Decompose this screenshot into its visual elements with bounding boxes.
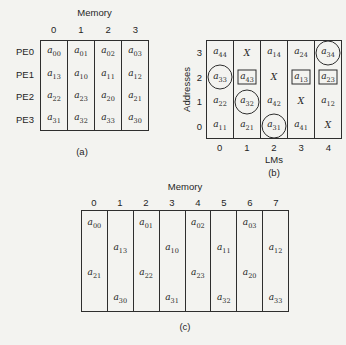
lm-column: X a43 a32 a21 [234, 41, 261, 138]
figure-page: Memory 0 1 2 3 PE0 PE1 PE2 PE3 a00 a13 a… [0, 0, 346, 345]
memory-column: a03 a20 [237, 211, 263, 311]
matrix-cell [134, 236, 159, 261]
matrix-cell [263, 211, 288, 236]
lm-column-label: 1 [233, 142, 260, 154]
matrix-cell [237, 286, 262, 311]
panel-a-title: Memory [40, 7, 149, 18]
matrix-cell: a20 [237, 261, 262, 286]
memory-column: a10 a31 [160, 211, 186, 311]
matrix-cell [108, 261, 133, 286]
matrix-entry: a21 [128, 91, 142, 102]
matrix-cell: a01 [134, 211, 159, 236]
matrix-entry: a43 [240, 72, 254, 83]
matrix-cell: a11 [211, 236, 236, 261]
matrix-entry: a31 [165, 293, 179, 304]
lm-column: a44 a33 a22 a11 [207, 41, 234, 138]
memory-column: a00 a21 [82, 211, 108, 311]
matrix-cell: a33 [263, 286, 288, 311]
matrix-entry: a32 [217, 293, 231, 304]
pe-row-label: PE2 [6, 86, 34, 109]
matrix-cell: a13 [41, 63, 67, 85]
matrix-cell: a21 [82, 261, 107, 286]
matrix-cell [263, 261, 288, 286]
matrix-entry: a21 [88, 268, 102, 279]
matrix-entry: a11 [101, 69, 115, 80]
matrix-cell: a02 [186, 211, 211, 236]
memory-column-label: 2 [95, 24, 122, 37]
matrix-entry: a11 [217, 243, 231, 254]
lm-column-label: 2 [260, 142, 287, 154]
matrix-entry: a13 [47, 69, 61, 80]
panel-b-row-labels: 3 2 1 0 [190, 40, 202, 139]
matrix-entry: X [271, 73, 277, 82]
matrix-cell: a30 [108, 286, 133, 311]
matrix-cell [186, 286, 211, 311]
matrix-entry: a32 [74, 113, 88, 124]
matrix-cell: a34 [315, 41, 341, 65]
matrix-entry: a10 [165, 243, 179, 254]
matrix-cell: a12 [122, 63, 148, 85]
panel-c-column-labels: 0 1 2 3 4 5 6 7 [81, 197, 289, 210]
matrix-cell [160, 211, 185, 236]
matrix-cell [160, 261, 185, 286]
memory-column-label: 1 [107, 197, 133, 210]
matrix-entry: X [325, 121, 331, 130]
memory-column-label: 0 [81, 197, 107, 210]
address-row-label: 3 [190, 40, 202, 65]
memory-column-label: 4 [185, 197, 211, 210]
memory-column-label: 3 [159, 197, 185, 210]
matrix-entry: a42 [267, 96, 281, 107]
matrix-cell: a44 [207, 41, 233, 65]
memory-column-label: 6 [237, 197, 263, 210]
panel-b-column-labels: 0 1 2 3 4 [206, 142, 342, 154]
matrix-cell: a30 [122, 108, 148, 130]
matrix-entry: a33 [269, 293, 283, 304]
matrix-entry: a12 [128, 69, 142, 80]
matrix-cell: a02 [95, 41, 121, 63]
matrix-cell: a31 [41, 108, 67, 130]
matrix-cell: a20 [95, 86, 121, 108]
panel-b-caption: (b) [206, 167, 342, 178]
matrix-cell: a12 [263, 236, 288, 261]
matrix-cell: a22 [41, 86, 67, 108]
matrix-entry: a23 [321, 72, 335, 83]
panel-a-grid: a00 a13 a22 a31 a01 a10 a23 a32 a02 a11 … [40, 40, 149, 131]
matrix-cell: X [261, 65, 287, 89]
memory-column: a02 a23 [186, 211, 212, 311]
matrix-cell [211, 211, 236, 236]
matrix-cell: a10 [160, 236, 185, 261]
matrix-cell: a32 [234, 90, 260, 114]
memory-column: a11 a32 [211, 211, 237, 311]
matrix-cell: a00 [82, 211, 107, 236]
matrix-entry: a03 [243, 218, 257, 229]
matrix-cell: a03 [122, 41, 148, 63]
matrix-entry: a33 [101, 113, 115, 124]
matrix-entry: a33 [213, 72, 227, 83]
matrix-entry: a44 [213, 47, 227, 58]
matrix-cell: a01 [68, 41, 94, 63]
memory-column: a03 a12 a21 a30 [122, 41, 148, 130]
panel-a-row-labels: PE0 PE1 PE2 PE3 [6, 40, 34, 131]
matrix-entry: a20 [243, 268, 257, 279]
lm-column-label: 4 [315, 142, 342, 154]
matrix-entry: a00 [88, 218, 102, 229]
lm-column-label: 3 [288, 142, 315, 154]
matrix-entry: a23 [74, 91, 88, 102]
matrix-entry: a24 [294, 47, 308, 58]
panel-a-column-labels: 0 1 2 3 [40, 24, 149, 37]
matrix-cell: a33 [207, 65, 233, 89]
matrix-entry: a31 [47, 113, 61, 124]
matrix-entry: a23 [191, 268, 205, 279]
lm-column: a34 a23 a12 X [315, 41, 341, 138]
matrix-cell: a12 [315, 90, 341, 114]
matrix-entry: a22 [139, 268, 153, 279]
matrix-cell: X [315, 114, 341, 138]
matrix-entry: a01 [74, 46, 88, 57]
matrix-cell: a14 [261, 41, 287, 65]
matrix-cell: X [288, 90, 314, 114]
matrix-entry: X [298, 97, 304, 106]
lms-axis-label: LMs [206, 154, 342, 165]
matrix-cell: a21 [122, 86, 148, 108]
matrix-cell: a22 [207, 90, 233, 114]
memory-column-label: 5 [211, 197, 237, 210]
